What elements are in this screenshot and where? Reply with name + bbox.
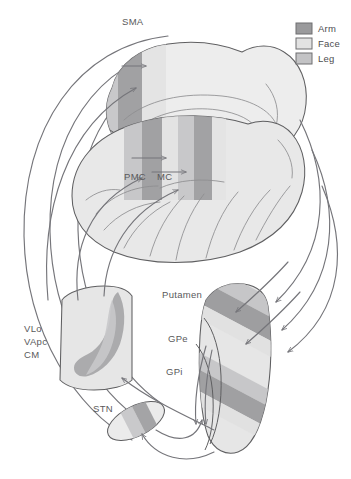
- legend-label-arm: Arm: [318, 23, 336, 34]
- legend-label-face: Face: [318, 38, 340, 49]
- label-sma: SMA: [122, 16, 144, 27]
- label-pmc: PMC: [124, 171, 146, 182]
- label-thalamus-vlo: VLo: [24, 323, 42, 334]
- thalamus-block: [60, 286, 132, 390]
- mc-band-arm: [194, 108, 212, 200]
- mc-band-face: [212, 108, 226, 200]
- legend-swatch-arm: [296, 23, 312, 34]
- label-mc: MC: [157, 171, 172, 182]
- legend: Arm Face Leg: [296, 23, 340, 64]
- label-thalamus-vapc: VApc: [24, 336, 47, 347]
- label-gpe: GPe: [168, 333, 188, 344]
- label-putamen: Putamen: [162, 289, 202, 300]
- diagram-canvas: SMA PMC MC Putamen GPe GPi STN VLo VApc …: [0, 0, 351, 479]
- legend-label-leg: Leg: [318, 53, 334, 64]
- label-stn: STN: [93, 403, 113, 414]
- brain-circuit-figure: SMA PMC MC Putamen GPe GPi STN VLo VApc …: [0, 0, 351, 479]
- label-thalamus-cm: CM: [24, 349, 39, 360]
- legend-swatch-leg: [296, 53, 312, 64]
- mc-band-leg: [178, 108, 194, 200]
- label-gpi: GPi: [166, 366, 183, 377]
- legend-swatch-face: [296, 38, 312, 49]
